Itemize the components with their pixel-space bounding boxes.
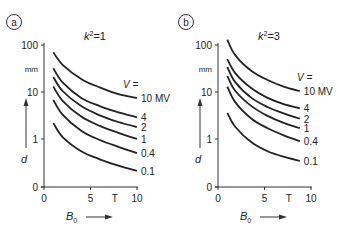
x-tick-label: 5 bbox=[88, 193, 94, 204]
arrow-head-icon bbox=[279, 215, 287, 220]
y-tick-label: 0 bbox=[32, 182, 38, 193]
chart-title: k2=1 bbox=[84, 30, 106, 42]
series-label: 1 bbox=[304, 123, 310, 134]
series-line-2 bbox=[227, 67, 299, 119]
series-label: 0.4 bbox=[304, 136, 318, 147]
arrow-head-icon bbox=[24, 98, 29, 106]
y-tick-label: 1 bbox=[32, 134, 38, 145]
y-tick-label: 10 bbox=[27, 87, 39, 98]
x-unit-label: T bbox=[112, 193, 118, 204]
series-line-4 bbox=[53, 68, 137, 117]
y-unit-label: mm bbox=[199, 65, 213, 74]
chart-figure: ak2=10110100mmd0510TB0V =10 MV4210.40.1b… bbox=[0, 0, 350, 238]
y-axis-label: d bbox=[195, 153, 202, 165]
series-line-0-4 bbox=[53, 100, 137, 153]
series-label: 0.1 bbox=[141, 166, 155, 177]
series-line-1 bbox=[227, 76, 299, 128]
series-label: 0.1 bbox=[304, 156, 318, 167]
y-unit-label: mm bbox=[25, 65, 39, 74]
x-tick-label: 0 bbox=[41, 193, 47, 204]
series-label: 10 MV bbox=[304, 86, 333, 97]
series-line-10-MV bbox=[227, 40, 299, 91]
y-tick-label: 0 bbox=[206, 182, 212, 193]
x-tick-label: 0 bbox=[215, 193, 221, 204]
chart-panel-b: bk2=30110100mmd0510TB0V =10 MV4210.40.1 bbox=[179, 15, 334, 225]
y-tick-label: 100 bbox=[21, 40, 38, 51]
series-label: 2 bbox=[141, 122, 147, 133]
arrow-head-icon bbox=[198, 98, 203, 106]
panel-label: a bbox=[11, 17, 17, 28]
x-tick-label: 10 bbox=[305, 193, 317, 204]
panel-label: b bbox=[183, 17, 189, 28]
legend-header: V = bbox=[297, 72, 312, 83]
x-tick-label: 10 bbox=[131, 193, 143, 204]
chart-panel-a: ak2=10110100mmd0510TB0V =10 MV4210.40.1 bbox=[7, 15, 171, 225]
series-label: 4 bbox=[304, 103, 310, 114]
series-line-10-MV bbox=[53, 52, 137, 98]
arrow-head-icon bbox=[105, 215, 113, 220]
x-tick-label: 5 bbox=[262, 193, 268, 204]
legend-header: V = bbox=[123, 79, 138, 90]
series-line-4 bbox=[227, 59, 299, 108]
y-tick-label: 100 bbox=[195, 40, 212, 51]
series-label: 1 bbox=[141, 134, 147, 145]
chart-title: k2=3 bbox=[258, 30, 280, 42]
y-axis-label: d bbox=[21, 153, 28, 165]
x-axis-label: B0 bbox=[66, 210, 77, 224]
series-label: 0.4 bbox=[141, 148, 155, 159]
series-label: 10 MV bbox=[141, 93, 170, 104]
series-line-0-1 bbox=[53, 123, 137, 171]
x-unit-label: T bbox=[286, 193, 292, 204]
y-tick-label: 10 bbox=[201, 87, 213, 98]
x-axis-label: B0 bbox=[240, 210, 251, 224]
y-tick-label: 1 bbox=[206, 134, 212, 145]
